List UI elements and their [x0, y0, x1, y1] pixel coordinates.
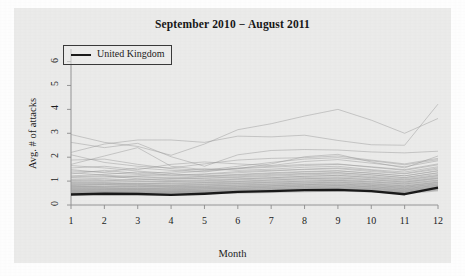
x-tick-11: 11 — [395, 215, 415, 226]
x-tick-8: 8 — [295, 215, 315, 226]
x-tick-5: 5 — [194, 215, 214, 226]
y-axis-label: Avg. # of attacks — [27, 54, 38, 214]
x-tick-7: 7 — [261, 215, 281, 226]
x-tick-3: 3 — [128, 215, 148, 226]
y-tick-5: 5 — [49, 76, 60, 92]
x-tick-9: 9 — [328, 215, 348, 226]
plot-canvas — [0, 0, 465, 276]
legend: United Kingdom — [63, 45, 172, 65]
legend-line-swatch — [71, 54, 91, 56]
background-series-lines — [71, 104, 438, 194]
y-tick-0: 0 — [49, 196, 60, 212]
chart-figure: September 2010 − August 2011 Avg. # of a… — [0, 0, 465, 276]
x-tick-12: 12 — [428, 215, 448, 226]
series-line — [71, 109, 438, 155]
x-axis-label: Month — [0, 248, 465, 259]
x-tick-6: 6 — [228, 215, 248, 226]
y-tick-2: 2 — [49, 148, 60, 164]
legend-label-united-kingdom: United Kingdom — [97, 48, 165, 59]
y-tick-1: 1 — [49, 172, 60, 188]
series-line — [71, 148, 438, 170]
x-tick-2: 2 — [94, 215, 114, 226]
x-tick-10: 10 — [361, 215, 381, 226]
x-tick-4: 4 — [161, 215, 181, 226]
y-tick-3: 3 — [49, 124, 60, 140]
y-tick-4: 4 — [49, 100, 60, 116]
x-tick-1: 1 — [61, 215, 81, 226]
y-tick-6: 6 — [49, 52, 60, 68]
